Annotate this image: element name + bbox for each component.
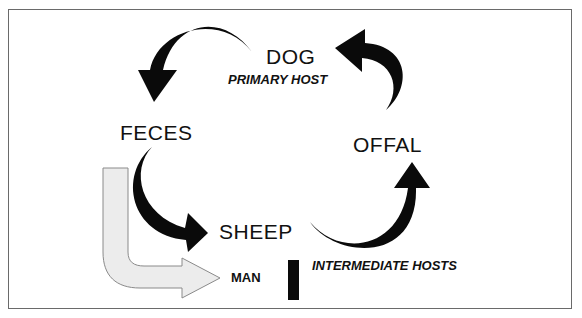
node-man: MAN <box>231 270 261 285</box>
node-sheep: SHEEP <box>219 220 293 244</box>
arrow-offal-to-dog <box>335 29 403 110</box>
arrow-feces-to-sheep <box>133 147 208 252</box>
node-feces: FECES <box>120 121 193 145</box>
arrow-dog-to-feces <box>138 27 252 102</box>
man-divider-bar <box>288 260 299 300</box>
node-offal: OFFAL <box>353 133 422 157</box>
arrow-sheep-to-offal <box>310 162 430 248</box>
label-primary-host: PRIMARY HOST <box>228 72 327 87</box>
node-dog: DOG <box>266 45 315 69</box>
label-intermediate-hosts: INTERMEDIATE HOSTS <box>312 258 457 273</box>
